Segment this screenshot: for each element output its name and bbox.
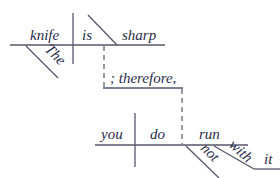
word-it: it: [264, 151, 273, 167]
word-you: you: [99, 126, 123, 142]
word-therefore: ; therefore,: [110, 70, 176, 86]
sentence-diagram: knife is sharp The ; therefore, you do r…: [0, 0, 280, 178]
diagram-lines: knife is sharp The ; therefore, you do r…: [0, 0, 280, 178]
word-do: do: [150, 126, 166, 142]
complement-slant: [88, 15, 117, 45]
word-is: is: [82, 27, 92, 43]
word-knife: knife: [30, 27, 59, 43]
word-with: with: [226, 136, 256, 165]
word-sharp: sharp: [122, 27, 157, 43]
